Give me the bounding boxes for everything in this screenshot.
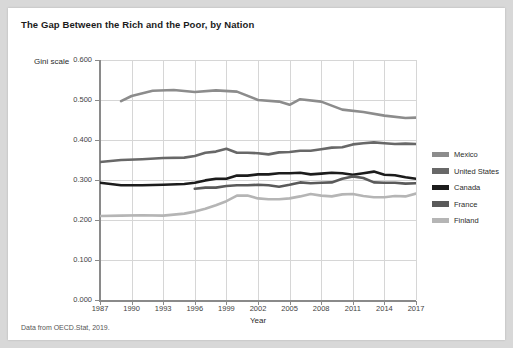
y-tick-label: 0.400 (52, 135, 92, 144)
y-tick-label: 0.200 (52, 215, 92, 224)
legend-item-label: United States (454, 167, 499, 176)
legend-swatch-icon (432, 218, 449, 224)
legend-swatch-icon (432, 201, 449, 207)
y-tick-label: 0.100 (52, 255, 92, 264)
y-tick-label: 0.300 (52, 175, 92, 184)
legend-item-mexico[interactable]: Mexico (432, 148, 512, 161)
y-tick-mark (95, 60, 99, 61)
y-tick-mark (95, 100, 99, 101)
y-tick-label: 0.000 (52, 295, 92, 304)
y-tick-mark (95, 220, 99, 221)
legend-item-label: Canada (454, 183, 480, 192)
x-tick-mark (100, 301, 101, 305)
x-tick-mark (416, 301, 417, 305)
chart-legend: MexicoUnited StatesCanadaFranceFinland (432, 148, 512, 231)
legend-item-label: France (454, 200, 477, 209)
legend-swatch-icon (432, 168, 449, 174)
gridline-vertical (416, 60, 417, 300)
x-tick-mark (132, 301, 133, 305)
y-tick-mark (95, 300, 99, 301)
x-tick-mark (226, 301, 227, 305)
legend-item-label: Mexico (454, 150, 478, 159)
legend-swatch-icon (432, 185, 449, 191)
legend-item-united-states[interactable]: United States (432, 165, 512, 178)
x-tick-mark (258, 301, 259, 305)
y-tick-label: 0.600 (52, 55, 92, 64)
series-layer (100, 60, 416, 300)
x-tick-label: 2017 (396, 304, 436, 313)
source-note: Data from OECD.Stat, 2019. (21, 324, 110, 331)
x-tick-mark (384, 301, 385, 305)
x-tick-mark (353, 301, 354, 305)
legend-item-canada[interactable]: Canada (432, 181, 512, 194)
y-tick-mark (95, 260, 99, 261)
x-tick-mark (290, 301, 291, 305)
series-line-finland (100, 194, 416, 216)
y-tick-label: 0.500 (52, 95, 92, 104)
y-tick-mark (95, 140, 99, 141)
x-axis-title: Year (100, 316, 416, 325)
legend-swatch-icon (432, 152, 449, 158)
series-line-mexico (121, 90, 416, 118)
series-line-canada (100, 172, 416, 186)
x-tick-mark (163, 301, 164, 305)
series-line-united-states (100, 142, 416, 162)
chart-card: The Gap Between the Rich and the Poor, b… (8, 8, 505, 340)
legend-item-france[interactable]: France (432, 198, 512, 211)
y-tick-mark (95, 180, 99, 181)
x-tick-mark (321, 301, 322, 305)
legend-item-label: Finland (454, 216, 479, 225)
x-tick-mark (195, 301, 196, 305)
page-title: The Gap Between the Rich and the Poor, b… (21, 19, 254, 30)
legend-item-finland[interactable]: Finland (432, 214, 512, 227)
